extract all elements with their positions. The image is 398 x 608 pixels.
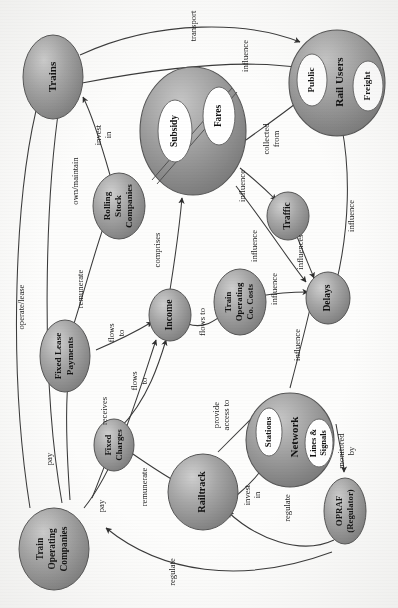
node-toc-line3: Companies [59,526,69,571]
edge-label-monitored-by: monitored by [336,433,356,469]
node-lines-line1: Lines & [309,429,318,458]
edge-label-receives: receives [99,396,109,425]
node-network-label: Network [288,416,300,458]
node-opraf[interactable]: OPRAF (Regulator) [324,478,366,544]
svg-text:collected: collected [261,123,271,155]
node-public[interactable]: Public [297,54,327,106]
edge-label-regulate-toc: regulate [167,558,177,586]
edge-label-regulate-railtrack: regulate [282,494,292,522]
edge-label-pay-charges: pay [96,499,106,512]
node-network[interactable]: Stations Network Lines & Signals [246,393,334,487]
edge-label-flows-to-charges: flows to [129,371,149,391]
edge-label-invest-in: invest in [93,124,113,145]
node-freight-label: Freight [362,71,372,101]
edge-label-remunerate-lease: remunerate [75,269,85,308]
edge-label-operate-lease: operate/lease [16,284,26,329]
node-trains-label: Trains [46,61,58,92]
edge-label-influence-traffic: influence [237,170,247,202]
edge-label-remunerate-railtrack: remunerate [139,467,149,506]
node-income-label: Income [163,299,174,331]
edge-toc-fixedlease-pay [67,382,70,500]
svg-text:monitored: monitored [336,433,346,469]
node-toc-costs-line1: Train [223,291,233,312]
edge-label-pay-lease: pay [44,452,54,465]
node-railtrack-label: Railtrack [196,471,207,513]
node-delays[interactable]: Delays [306,272,350,324]
node-toc-line2: Operating [47,528,57,569]
node-lines-line2: Signals [319,429,328,455]
node-rail-users[interactable]: Public Rail Users Freight [289,30,385,136]
node-subsidy-label: Subsidy [169,115,179,147]
node-stations-label: Stations [263,416,273,447]
edge-label-own-maintain: own/maintain [70,157,80,205]
influence-diagram: .ed{fill:none;stroke:#3a3a3a;stroke-widt… [0,0,398,608]
svg-text:flows: flows [106,323,116,343]
svg-text:in: in [252,491,262,498]
edge-toc-trains-ownmaintain [47,100,62,503]
edge-label-influence-costs: influence [269,273,279,305]
node-train-operating-companies[interactable]: Train Operating Companies [19,508,89,590]
edge-label-flows-to-lease: flows to [106,323,126,343]
edge-label-influences: influences [295,234,305,270]
node-fixed-charges-line2: Charges [114,429,124,461]
node-traffic-label: Traffic [282,202,292,229]
svg-text:to: to [116,330,126,337]
node-toc-line1: Train [35,537,45,560]
node-stations[interactable]: Stations [256,408,282,456]
svg-text:provide: provide [211,402,221,428]
node-income[interactable]: Income [149,289,191,341]
node-opraf-line1: OPRAF [334,496,344,526]
node-fixed-lease-line1: Fixed Lease [53,333,63,380]
node-income-pool[interactable]: Subsidy Fares [140,67,246,195]
svg-text:access to: access to [221,400,231,431]
edge-label-influence-network: influence [292,329,302,361]
edge-label-influence-pool-delays: influence [249,230,259,262]
node-fixed-charges[interactable]: Fixed Charges [94,419,134,471]
edge-label-invest-in-network: invest in [242,484,262,505]
node-rail-users-label: Rail Users [333,57,345,107]
svg-text:invest: invest [93,124,103,145]
node-rolling-line1: Rolling [102,191,112,220]
node-fares[interactable]: Fares [203,87,235,145]
node-trains[interactable]: Trains [23,35,83,119]
diagram-canvas: .ed{fill:none;stroke:#3a3a3a;stroke-widt… [0,0,398,608]
node-fares-label: Fares [213,105,223,128]
node-subsidy[interactable]: Subsidy [158,100,192,162]
node-railtrack[interactable]: Railtrack [168,454,238,530]
node-fixed-lease-line2: Payments [65,336,75,375]
edge-label-influence-trains: influence [240,40,250,72]
node-toc-costs[interactable]: Train Operating Co. Costs [214,269,266,335]
edge-tocosts-delays-influence [260,292,308,296]
node-toc-costs-line2: Operating [234,282,244,321]
node-fixed-charges-line1: Fixed [103,434,113,455]
node-public-label: Public [306,67,316,92]
node-delays-label: Delays [321,284,332,311]
edge-income-pool-comprises [170,198,182,290]
svg-text:invest: invest [242,484,252,505]
node-rolling-line2: Stock [113,194,123,217]
node-opraf-line2: (Regulator) [345,489,355,533]
node-rolling-stock-companies[interactable]: Rolling Stock Companies [93,173,145,239]
edge-opraf-toc-regulate [106,528,332,571]
edge-label-transport: transport [188,10,198,41]
node-freight[interactable]: Freight [353,61,383,111]
edge-label-flows-to-costs: flows to [197,308,207,336]
node-lines-signals[interactable]: Lines & Signals [305,419,333,467]
edge-label-comprises: comprises [152,232,162,268]
edge-label-collected-from: collected from [261,123,281,155]
node-traffic[interactable]: Traffic [267,192,309,240]
svg-text:by: by [346,446,356,455]
edge-label-provide-access: provide access to [211,400,231,431]
edge-label-influence-delays-users: influence [346,200,356,232]
node-toc-costs-line3: Co. Costs [245,284,255,320]
node-rolling-line3: Companies [124,184,134,228]
edge-opraf-railtrack-regulate [228,512,334,546]
svg-text:flows: flows [129,371,139,391]
svg-text:to: to [139,378,149,385]
svg-text:in: in [103,131,113,138]
svg-text:from: from [271,130,281,147]
node-fixed-lease-payments[interactable]: Fixed Lease Payments [40,320,90,392]
